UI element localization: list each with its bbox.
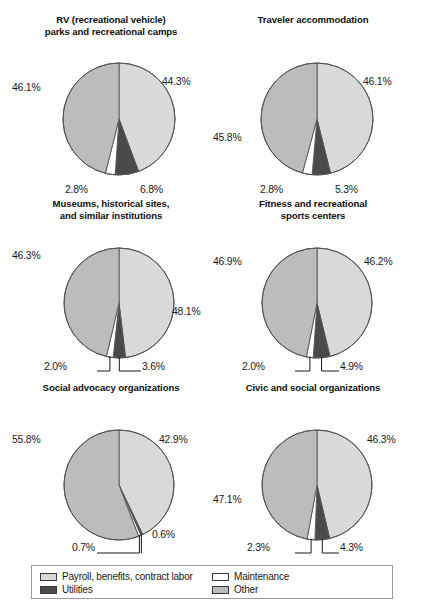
legend-swatch-other (212, 586, 229, 594)
legend-label-utilities: Utilities (62, 584, 92, 595)
legend-item-utilities: Utilities (40, 584, 208, 595)
pie-value-label-maintenance: 2.0% (242, 361, 265, 372)
pie-value-label-other: 55.8% (12, 434, 40, 445)
pie-value-label-payroll: 48.1% (172, 306, 200, 317)
legend-label-payroll: Payroll, benefits, contract labor (62, 571, 193, 582)
pie-value-label-payroll: 42.9% (159, 434, 187, 445)
pie-svg (10, 382, 212, 552)
legend-item-other: Other (212, 584, 289, 595)
pie-value-label-maintenance: 2.8% (65, 184, 88, 195)
pie-svg (212, 198, 414, 368)
pie-value-label-utilities: 0.6% (152, 529, 175, 540)
leader-line-maintenance (295, 539, 311, 553)
leader-line-utilities (322, 539, 339, 553)
pie-value-label-other: 47.1% (213, 494, 241, 505)
pie-value-label-other: 46.1% (12, 82, 40, 93)
legend-grid: Payroll, benefits, contract labor Mainte… (40, 570, 289, 596)
legend-swatch-payroll (40, 573, 57, 581)
pie-value-label-maintenance: 2.8% (260, 184, 283, 195)
pie-value-label-other: 46.9% (213, 256, 241, 267)
legend-label-other: Other (234, 584, 258, 595)
pie-value-label-payroll: 44.3% (162, 76, 190, 87)
pie-value-label-utilities: 6.8% (140, 184, 163, 195)
pie-value-label-utilities: 3.6% (142, 361, 165, 372)
pie-value-label-payroll: 46.2% (364, 256, 392, 267)
pie-slice-payroll (119, 248, 174, 358)
pie-value-label-maintenance: 2.0% (44, 361, 67, 372)
pie-slice-other (262, 430, 317, 539)
leader-line-utilities (322, 357, 339, 371)
legend-swatch-maintenance (212, 573, 229, 581)
chart-legend: Payroll, benefits, contract labor Mainte… (31, 565, 393, 599)
pie-value-label-maintenance: 2.3% (247, 542, 270, 553)
legend-item-payroll: Payroll, benefits, contract labor (40, 571, 208, 582)
legend-item-maintenance: Maintenance (212, 571, 289, 582)
leader-line-maintenance (97, 356, 110, 371)
pie-value-label-other: 45.8% (213, 132, 241, 143)
leader-line-utilities (119, 357, 141, 371)
pie-value-label-utilities: 5.3% (335, 184, 358, 195)
pie-svg (10, 198, 212, 368)
pie-svg (212, 382, 414, 552)
pie-value-label-other: 46.3% (12, 250, 40, 261)
legend-swatch-utilities (40, 586, 57, 594)
pie-value-label-payroll: 46.1% (363, 76, 391, 87)
pie-svg (212, 14, 414, 186)
pie-value-label-utilities: 4.9% (340, 361, 363, 372)
pie-chart-figure: RV (recreational vehicle) parks and recr… (0, 0, 424, 615)
pie-value-label-maintenance: 0.7% (72, 542, 95, 553)
leader-line-maintenance (295, 357, 310, 372)
pie-slice-other (262, 248, 317, 357)
pie-svg (10, 14, 212, 186)
pie-value-label-payroll: 46.3% (367, 434, 395, 445)
legend-label-maintenance: Maintenance (234, 571, 289, 582)
pie-value-label-utilities: 4.3% (340, 542, 363, 553)
